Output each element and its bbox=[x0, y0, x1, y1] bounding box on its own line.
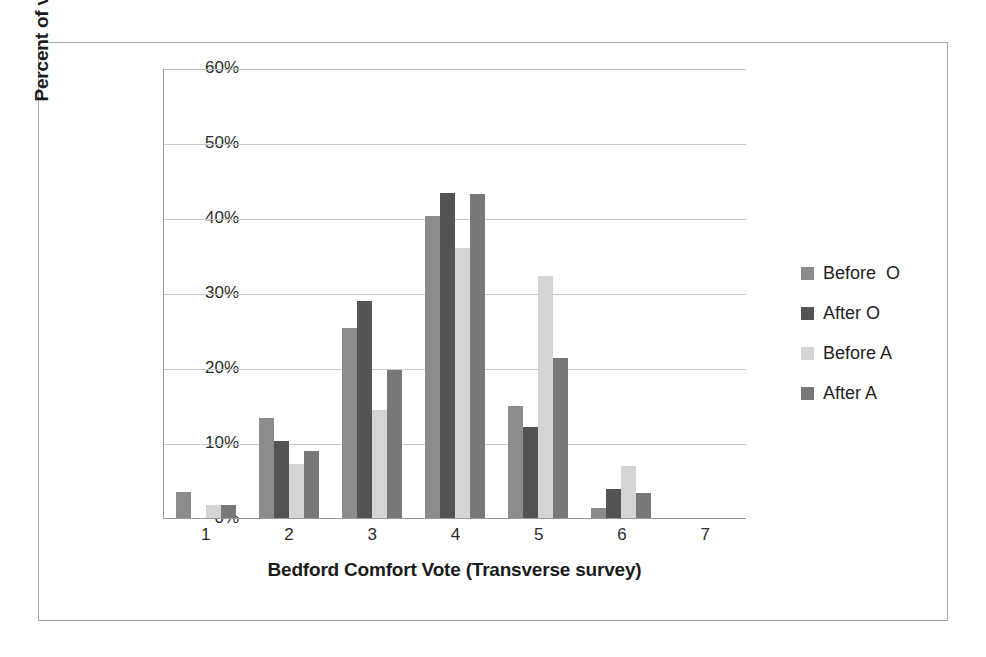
bar bbox=[553, 358, 568, 519]
legend-swatch-icon bbox=[801, 347, 814, 360]
bar-group bbox=[663, 69, 746, 518]
bar-group bbox=[330, 69, 413, 518]
chart-legend: Before OAfter OBefore AAfter A bbox=[801, 253, 941, 413]
y-axis-title: Percent of votes cast bbox=[31, 0, 53, 173]
chart-frame: Percent of votes cast 0%10%20%30%40%50%6… bbox=[38, 42, 948, 621]
bar bbox=[304, 451, 319, 519]
x-axis-title: Bedford Comfort Vote (Transverse survey) bbox=[163, 559, 746, 581]
bar bbox=[523, 427, 538, 518]
bar bbox=[176, 492, 191, 518]
bar-group bbox=[247, 69, 330, 518]
bar bbox=[621, 466, 636, 519]
bar bbox=[538, 276, 553, 518]
bar bbox=[636, 493, 651, 518]
bar bbox=[606, 489, 621, 518]
bar bbox=[206, 505, 221, 518]
bar bbox=[425, 216, 440, 518]
bar bbox=[591, 508, 606, 518]
legend-label: Before O bbox=[823, 263, 900, 284]
legend-item[interactable]: After A bbox=[801, 373, 941, 413]
bar bbox=[259, 418, 274, 519]
legend-item[interactable]: Before A bbox=[801, 333, 941, 373]
bar bbox=[274, 441, 289, 518]
bar bbox=[387, 370, 402, 519]
x-tick-label: 3 bbox=[331, 525, 414, 545]
legend-swatch-icon bbox=[801, 387, 814, 400]
x-tick-label: 7 bbox=[664, 525, 747, 545]
legend-swatch-icon bbox=[801, 307, 814, 320]
bar-group bbox=[497, 69, 580, 518]
bar bbox=[289, 464, 304, 518]
bar-group bbox=[164, 69, 247, 518]
x-tick-label: 5 bbox=[497, 525, 580, 545]
bar bbox=[221, 505, 236, 518]
bar-group bbox=[413, 69, 496, 518]
x-tick-label: 1 bbox=[164, 525, 247, 545]
bars-layer bbox=[164, 69, 746, 518]
bar bbox=[440, 193, 455, 519]
bar bbox=[455, 248, 470, 518]
x-axis-tick-labels: 1234567 bbox=[164, 525, 747, 545]
legend-item[interactable]: Before O bbox=[801, 253, 941, 293]
legend-item[interactable]: After O bbox=[801, 293, 941, 333]
legend-swatch-icon bbox=[801, 267, 814, 280]
bar bbox=[508, 406, 523, 519]
x-axis-line bbox=[163, 518, 746, 519]
legend-label: After A bbox=[823, 383, 877, 404]
x-tick-label: 4 bbox=[414, 525, 497, 545]
bar bbox=[470, 194, 485, 518]
legend-label: After O bbox=[823, 303, 880, 324]
bar bbox=[372, 410, 387, 518]
bar bbox=[342, 328, 357, 518]
legend-label: Before A bbox=[823, 343, 892, 364]
x-tick-label: 6 bbox=[580, 525, 663, 545]
x-tick-label: 2 bbox=[247, 525, 330, 545]
bar bbox=[357, 301, 372, 519]
bar-group bbox=[580, 69, 663, 518]
plot-area bbox=[163, 69, 746, 519]
